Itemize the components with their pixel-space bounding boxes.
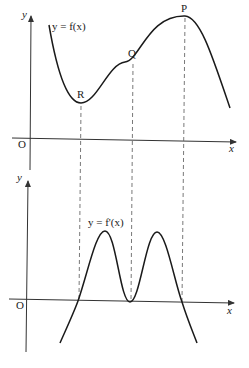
point-p-label: P: [181, 2, 187, 14]
point-q-label: Q: [128, 47, 136, 59]
top-y-axis-label: y: [22, 8, 27, 20]
point-r-label: R: [77, 88, 84, 100]
top-curve-label: y = f(x): [52, 20, 86, 32]
bottom-y-axis-label: y: [17, 171, 22, 183]
labels-layer: y y = f(x) R Q P O x y y = f'(x) O x: [0, 0, 249, 368]
bottom-x-axis-label: x: [227, 304, 232, 316]
bottom-origin-label: O: [16, 299, 24, 311]
top-x-axis-label: x: [229, 142, 234, 154]
top-origin-label: O: [18, 138, 26, 150]
bottom-curve-label: y = f'(x): [88, 216, 124, 228]
